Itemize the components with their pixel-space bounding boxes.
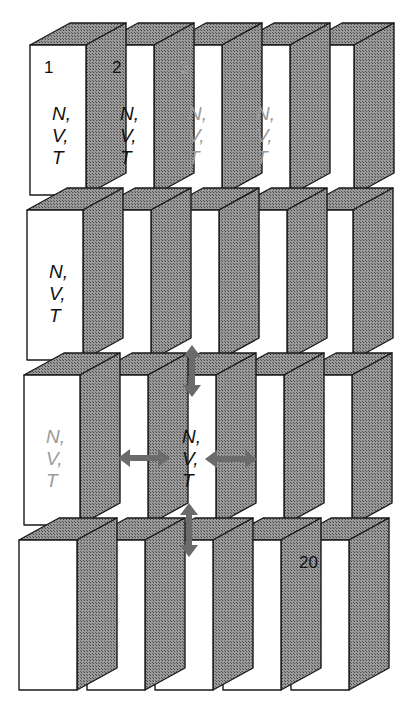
- cell-3-var-t: T: [188, 147, 201, 168]
- cell-number-20: 20: [299, 553, 318, 572]
- cell-2-var-n: N,: [120, 103, 139, 124]
- box-r2-c1: [27, 188, 123, 360]
- cell-3-var-v: V,: [188, 125, 205, 146]
- box-grid: 1N,V,T2N,V,T3N,V,TN,V,TN,V,TN,V,TN,V,T20: [19, 23, 394, 690]
- cell-13-var-v: V,: [182, 448, 199, 469]
- cell-11-var-v: V,: [46, 448, 63, 469]
- cell-number-2: 2: [112, 58, 121, 77]
- cell-11-var-n: N,: [46, 426, 65, 447]
- cell-6-var-t: T: [49, 305, 62, 326]
- cell-number-1: 1: [44, 58, 53, 77]
- cell-4-var-n: N,: [256, 103, 275, 124]
- box-r4-c1: [19, 518, 117, 690]
- cell-1-var-v: V,: [52, 125, 69, 146]
- cell-6-var-n: N,: [49, 261, 68, 282]
- cell-4-var-t: T: [256, 147, 269, 168]
- cell-1-var-t: T: [52, 147, 65, 168]
- cell-1-var-n: N,: [52, 103, 71, 124]
- box-r3-c1: [24, 353, 120, 525]
- cell-6-var-v: V,: [49, 283, 66, 304]
- cell-2-var-t: T: [120, 147, 133, 168]
- subsystem-grid-diagram: 1N,V,T2N,V,T3N,V,TN,V,TN,V,TN,V,TN,V,T20: [0, 0, 409, 703]
- cell-number-3: 3: [180, 58, 189, 77]
- cell-2-var-v: V,: [120, 125, 137, 146]
- cell-11-var-t: T: [46, 470, 59, 491]
- cell-13-var-n: N,: [182, 426, 201, 447]
- cell-4-var-v: V,: [256, 125, 273, 146]
- box-r1-c1: [30, 23, 126, 195]
- cell-13-var-t: T: [182, 470, 195, 491]
- cell-3-var-n: N,: [188, 103, 207, 124]
